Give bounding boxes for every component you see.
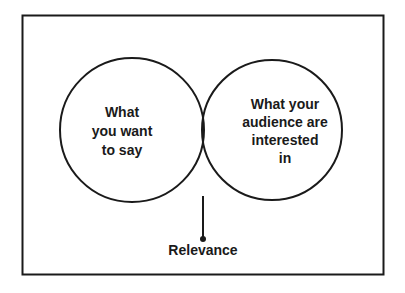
left-label-line-3: to say — [102, 142, 143, 158]
left-label-line-2: you want — [92, 123, 153, 139]
relevance-label: Relevance — [168, 242, 237, 258]
right-label-line-4: in — [279, 150, 291, 166]
right-label-line-1: What your — [251, 96, 320, 112]
left-label-line-1: What — [105, 104, 140, 120]
right-label-line-2: audience are — [242, 114, 328, 130]
right-label-line-3: interested — [252, 132, 319, 148]
venn-diagram: What you want to say What your audience … — [0, 0, 405, 293]
